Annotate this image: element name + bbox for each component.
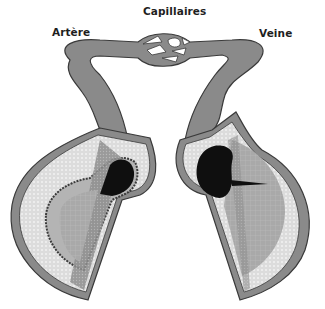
blood-vessel-diagram <box>0 0 325 309</box>
artery-section <box>11 128 156 300</box>
vein-section <box>176 112 309 300</box>
